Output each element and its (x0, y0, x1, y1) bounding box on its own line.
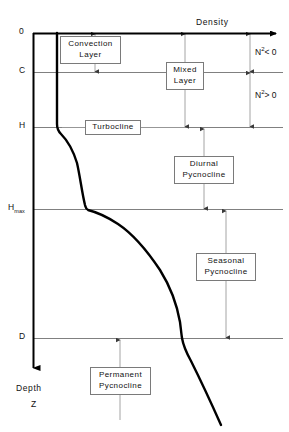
callout-turbocline: Turbocline (85, 120, 141, 135)
callout-convection-layer-line1: Convection (65, 39, 116, 50)
callout-diurnal-pycnocline-line2: Pycnocline (179, 170, 229, 181)
depth-label-hmax: Hmax (8, 203, 25, 216)
callout-seasonal-pycnocline: Seasonal Pycnocline (196, 253, 256, 281)
y-axis-title-line2: Z (31, 400, 37, 409)
callout-mixed-layer-line2: Layer (171, 76, 199, 87)
stability-stable-relation: > 0 (264, 90, 276, 100)
callout-convection-layer: Convection Layer (60, 36, 121, 64)
depth-label-d: D (19, 332, 25, 341)
axis-group (33, 33, 276, 368)
stability-unstable-relation: < 0 (264, 47, 276, 57)
callout-mixed-layer: Mixed Layer (166, 62, 204, 90)
callout-diurnal-pycnocline-line1: Diurnal (179, 159, 229, 170)
callout-turbocline-line1: Turbocline (90, 122, 136, 133)
y-axis-title-line1: Depth (16, 384, 42, 393)
depth-label-c: C (19, 66, 25, 75)
depth-label-h: H (19, 121, 25, 130)
depth-label-hmax-subscript: max (14, 208, 24, 214)
leader-line-group (62, 34, 250, 420)
callout-seasonal-pycnocline-line1: Seasonal (201, 256, 251, 267)
x-axis-title: Density (196, 18, 229, 27)
diagram-root: 0 C H Hmax D Density Depth Z N2< 0 N2> 0… (0, 0, 289, 432)
callout-convection-layer-line2: Layer (65, 50, 116, 61)
callout-mixed-layer-line1: Mixed (171, 65, 199, 76)
stability-label-unstable: N2< 0 (255, 46, 277, 57)
callout-seasonal-pycnocline-line2: Pycnocline (201, 267, 251, 278)
depth-label-zero: 0 (19, 27, 24, 36)
callout-permanent-pycnocline-line2: Pycnocline (95, 381, 146, 392)
callout-permanent-pycnocline: Permanent Pycnocline (90, 367, 151, 395)
callout-permanent-pycnocline-line1: Permanent (95, 370, 146, 381)
gridline-group (33, 73, 283, 339)
callout-diurnal-pycnocline: Diurnal Pycnocline (174, 156, 234, 184)
stability-label-stable: N2> 0 (255, 89, 277, 100)
